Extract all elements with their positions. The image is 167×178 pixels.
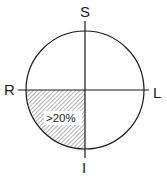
axis-label-right: L: [153, 84, 161, 101]
quadrant-diagram: >20% S I R L: [0, 0, 167, 178]
diagram-svg: >20% S I R L: [0, 0, 167, 178]
axis-label-left: R: [4, 81, 15, 98]
region-label-lower-left: >20%: [46, 112, 76, 124]
axis-label-top: S: [80, 3, 90, 20]
axis-label-bottom: I: [82, 159, 86, 176]
